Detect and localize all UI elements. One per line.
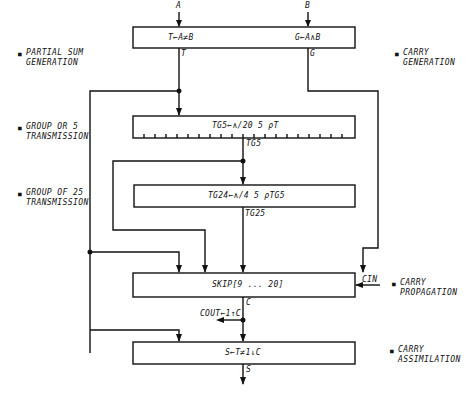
- bullet-icon: ■: [18, 49, 22, 59]
- partial-sum-expr: T←A≠B: [168, 33, 194, 43]
- label-line1: CARRY: [400, 278, 426, 288]
- bullet-icon: ■: [18, 123, 22, 133]
- generation-box: [133, 27, 355, 48]
- label-line2: ASSIMILATION: [398, 355, 461, 365]
- label-line1: CARRY: [398, 345, 424, 355]
- carry-out-label: COUT←1↑C: [200, 309, 241, 319]
- label-line2: PROPAGATION: [400, 288, 457, 298]
- t-output-label: T: [181, 49, 186, 59]
- input-b-label: B: [305, 1, 310, 11]
- label-line1: GROUP OF 25: [26, 188, 83, 198]
- label-line1: CARRY: [403, 48, 429, 58]
- s-output-label: S: [246, 365, 251, 375]
- bullet-icon: ■: [18, 189, 22, 199]
- skip-expr: SKIP[9 ... 20]: [212, 280, 284, 290]
- carry-gen-expr: G←A∧B: [295, 33, 321, 43]
- bullet-icon: ■: [390, 346, 394, 356]
- input-a-label: A: [176, 1, 181, 11]
- label-line2: GENERATION: [403, 58, 455, 68]
- carry-in-label: CIN: [362, 275, 377, 285]
- label-line2: TRANSMISSION: [26, 198, 89, 208]
- group5-expr: TG5←∧/20 5 ρT: [212, 121, 279, 131]
- g-output-label: G: [310, 49, 315, 59]
- label-line1: GROUP OR 5: [26, 122, 78, 132]
- bullet-icon: ■: [392, 279, 396, 289]
- group25-expr: TG24←∧/4 5 ρTG5: [208, 191, 285, 201]
- tg5-output-label: TG5: [246, 139, 261, 149]
- bullet-icon: ■: [395, 49, 399, 59]
- assimilation-expr: S←T≠1↓C: [225, 348, 261, 358]
- tg25-output-label: TG25: [245, 209, 265, 219]
- label-line2: TRANSMISSION: [26, 132, 89, 142]
- c-output-label: C: [246, 298, 251, 308]
- label-line2: GENERATION: [26, 58, 78, 68]
- label-line1: PARTIAL SUM: [26, 48, 83, 58]
